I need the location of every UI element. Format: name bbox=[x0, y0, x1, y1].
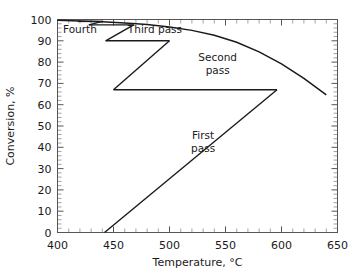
x-tick-label: 650 bbox=[327, 239, 348, 252]
y-tick-label: 30 bbox=[38, 163, 52, 176]
y-tick-label: 40 bbox=[38, 141, 52, 154]
conversion-temperature-plot: 4004505005506006500102030405060708090100… bbox=[0, 0, 364, 275]
series-equilibrium-curve bbox=[58, 20, 327, 95]
y-tick-label: 80 bbox=[38, 56, 52, 69]
annotation-pass: pass bbox=[206, 64, 230, 76]
y-tick-label: 90 bbox=[38, 35, 52, 48]
y-tick-label: 100 bbox=[31, 14, 52, 27]
y-tick-label: 70 bbox=[38, 77, 52, 90]
y-tick-label: 10 bbox=[38, 205, 52, 218]
y-axis-title: Conversion, % bbox=[4, 86, 17, 165]
series-first-pass bbox=[105, 90, 277, 233]
x-axis-title: Temperature, °C bbox=[152, 256, 243, 269]
x-tick-label: 550 bbox=[215, 239, 236, 252]
annotation-first: First bbox=[192, 129, 214, 141]
x-tick-label: 500 bbox=[159, 239, 180, 252]
x-tick-label: 600 bbox=[271, 239, 292, 252]
y-tick-label: 60 bbox=[38, 99, 52, 112]
x-tick-label: 450 bbox=[103, 239, 124, 252]
y-tick-label: 20 bbox=[38, 184, 52, 197]
annotation-pass: pass bbox=[191, 142, 215, 154]
annotation-second: Second bbox=[198, 51, 237, 63]
annotation-fourth: Fourth bbox=[63, 23, 97, 35]
y-tick-label: 50 bbox=[38, 120, 52, 133]
annotation-third-pass: Third pass bbox=[127, 23, 182, 35]
y-tick-label: 0 bbox=[45, 227, 52, 240]
x-tick-label: 400 bbox=[47, 239, 68, 252]
series-second-pass bbox=[114, 41, 170, 90]
chart-figure: 4004505005506006500102030405060708090100… bbox=[0, 0, 364, 275]
